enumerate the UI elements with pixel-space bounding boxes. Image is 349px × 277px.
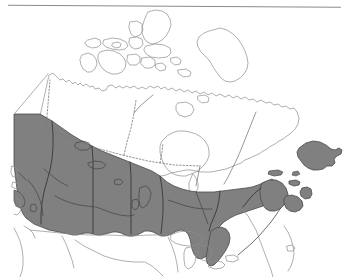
us-interior-line-a [75,240,144,262]
alaska-yukon-border [15,74,48,113]
arctic-island-small-d [178,69,191,77]
shaded-maritimes [260,180,288,211]
arctic-island-small-e [198,95,209,103]
canada-map-svg [0,0,349,277]
baffin-island-outline [197,28,248,82]
shaded-newfoundland [297,141,342,170]
quebec-river-st-lawrence [238,209,280,255]
shaded-nova-scotia [284,195,303,212]
us-pacific-coast-outline [14,228,23,277]
arctic-island-small-a [112,42,121,48]
victoria-island-outline [98,50,126,74]
arctic-island-small-b [156,63,166,71]
shaded-band-main [14,114,281,259]
shaded-prince-edward-island [289,180,300,186]
shaded-anticosti-island [268,170,283,176]
quebec-labrador-border [224,112,256,184]
arctic-island-small-c [171,57,181,65]
shaded-cape-breton [300,187,312,199]
us-interior-line-b [145,262,163,276]
hudson-bay-outline [160,131,209,176]
shaded-gulf-islet [292,171,300,176]
us-interior-line-c [62,236,74,268]
lake-ontario-outline [226,255,238,262]
arctic-island-somerset [141,57,155,68]
shaded-distribution-band-group [14,114,342,266]
us-east-coast-outline [243,210,273,277]
arctic-island-southampton [176,102,194,117]
us-pacific-inlet [24,226,35,238]
us-interior-line-d [168,237,178,272]
nwt-internal-border [134,95,153,113]
map-figure [0,0,349,277]
nwt-nunavut-dotted-border [124,100,136,155]
horizontal-rule [8,5,341,7]
banks-island-outline [80,53,97,72]
arctic-island-prince-patrick [85,38,101,48]
arctic-island-bathurst [129,37,143,49]
us-northeast-coast-outline [284,226,294,271]
arctic-island-melville [103,38,128,50]
us-northeast-islet [287,245,295,251]
arctic-island-devon [144,44,171,58]
arctic-island-prince-of-wales [127,54,140,65]
arctic-island-axel-heiberg [129,21,143,37]
ellesmere-island-outline [142,10,171,44]
